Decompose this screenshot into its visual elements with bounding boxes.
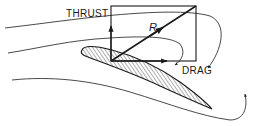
airfoil-force-diagram: THRUST R DRAG: [0, 0, 254, 126]
resultant-label: R: [149, 21, 157, 33]
thrust-label: THRUST: [66, 8, 108, 19]
drag-label: DRAG: [182, 65, 212, 76]
airfoil: [81, 47, 212, 109]
streamline-bottom: [12, 79, 246, 121]
